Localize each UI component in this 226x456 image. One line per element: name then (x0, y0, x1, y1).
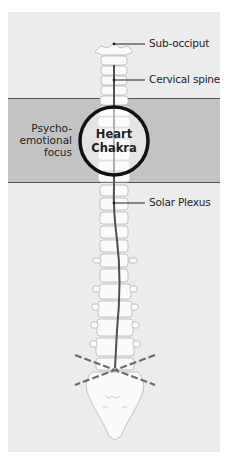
psycho-emotional-focus-label: Psycho- emotional focus (10, 122, 72, 158)
focus-line-2: emotional (10, 134, 72, 146)
label-sub-occiput: Sub-occiput (149, 37, 209, 49)
focus-line-1: Psycho- (10, 122, 72, 134)
chakra-line-2: Chakra (84, 141, 144, 155)
label-solar-plexus: Solar Plexus (149, 196, 211, 208)
chakra-line-1: Heart (84, 127, 144, 141)
spine-illustration (0, 0, 226, 456)
heart-chakra-label: Heart Chakra (84, 127, 144, 155)
focus-line-3: focus (10, 146, 72, 158)
label-cervical-spine: Cervical spine (149, 73, 220, 85)
